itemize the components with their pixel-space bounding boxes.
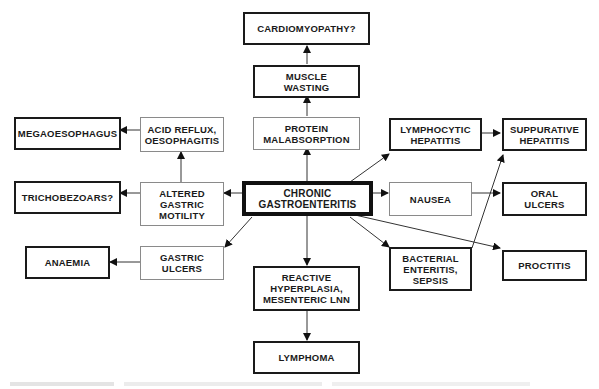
node-megaoesophagus: MEGAOESOPHAGUS: [14, 117, 121, 150]
node-altered-gastric-motility: ALTERED GASTRIC MOTILITY: [140, 182, 224, 226]
node-acid-reflux-oesophagitis: ACID REFLUX, OESOPHAGITIS: [140, 117, 224, 152]
edge-bacterial-to-suppurative: [472, 155, 503, 248]
node-reactive-hyperplasia: REACTIVE HYPERPLASIA, MESENTERIC LNN: [253, 266, 360, 311]
edge-cg-to-gastric-ulcers: [225, 217, 252, 247]
node-muscle-wasting: MUSCLE WASTING: [253, 65, 360, 98]
node-bacterial-enteritis-sepsis: BACTERIAL ENTERITIS, SEPSIS: [389, 247, 472, 291]
node-anaemia: ANAEMIA: [25, 246, 110, 279]
node-nausea: NAUSEA: [389, 182, 472, 216]
edge-cg-to-proctitis: [355, 215, 500, 248]
node-oral-ulcers: ORAL ULCERS: [502, 182, 587, 216]
edge-cg-to-lymphocytic: [350, 154, 389, 182]
node-lymphocytic-hepatitis: LYMPHOCYTIC HEPATITIS: [389, 118, 482, 151]
flowchart-diagram: CARDIOMYOPATHY? MUSCLE WASTING PROTEIN M…: [0, 0, 599, 389]
node-gastric-ulcers: GASTRIC ULCERS: [140, 246, 224, 280]
figure-caption-cut-off: [10, 382, 530, 386]
node-lymphoma: LYMPHOMA: [253, 341, 360, 374]
node-suppurative-hepatitis: SUPPURATIVE HEPATITIS: [502, 118, 587, 151]
node-trichobezoars: TRICHOBEZOARS?: [14, 181, 121, 214]
node-proctitis: PROCTITIS: [502, 250, 587, 281]
node-cardiomyopathy: CARDIOMYOPATHY?: [243, 12, 370, 45]
node-protein-malabsorption: PROTEIN MALABSORPTION: [253, 117, 360, 150]
node-chronic-gastroenteritis: CHRONIC GASTROENTERITIS: [242, 181, 373, 216]
